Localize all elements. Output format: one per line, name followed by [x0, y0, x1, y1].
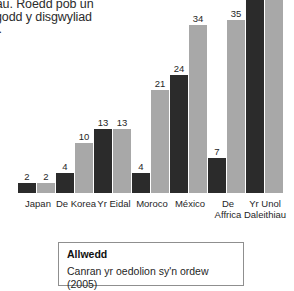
bar-group: 13 13 — [94, 0, 132, 193]
axis-label-yr-unol-daleithiau: Yr Unol Daleithiau — [236, 199, 294, 220]
bar-dark — [56, 173, 74, 193]
bar-value-label: 4 — [54, 162, 76, 172]
bar-value-label: 35 — [225, 9, 247, 19]
legend-box: Allwedd Canran yr oedolion sy'n ordew (2… — [58, 242, 244, 286]
bar-group: 4 21 — [132, 0, 170, 193]
bar-light — [265, 0, 283, 193]
bar-group: 2 2 — [18, 0, 56, 193]
bar-value-label: 13 — [111, 118, 133, 128]
legend-title: Allwedd — [67, 248, 235, 261]
bar-dark — [94, 129, 112, 193]
bar-group — [246, 0, 284, 193]
bar-group: 7 35 — [208, 0, 246, 193]
bar-dark — [18, 183, 36, 193]
bar-value-label: 34 — [187, 14, 209, 24]
bar-group: 24 34 — [170, 0, 208, 193]
bar-light — [227, 20, 245, 193]
bar-group: 4 10 — [56, 0, 94, 193]
bar-value-label: 4 — [130, 162, 152, 172]
bar-dark — [132, 173, 150, 193]
chart-x-axis: Japan De Korea Yr Eidal Moroco México De… — [0, 196, 292, 234]
bar-chart: 2 2 4 10 13 13 4 21 24 — [0, 0, 292, 196]
bar-light — [75, 143, 93, 193]
legend-description: Canran yr oedolion sy'n ordew (2005) — [67, 265, 235, 291]
bar-light — [37, 183, 55, 193]
bar-value-label: 7 — [206, 147, 228, 157]
bar-dark — [208, 158, 226, 193]
bar-value-label: 21 — [149, 79, 171, 89]
bar-light — [151, 90, 169, 193]
bar-value-label: 24 — [168, 64, 190, 74]
bar-light — [113, 129, 131, 193]
bar-dark — [170, 75, 188, 193]
bar-dark — [246, 0, 264, 193]
bar-light — [189, 25, 207, 193]
chart-plot-area: 2 2 4 10 13 13 4 21 24 — [0, 0, 292, 193]
bar-value-label: 10 — [73, 132, 95, 142]
bar-value-label: 2 — [35, 172, 57, 182]
